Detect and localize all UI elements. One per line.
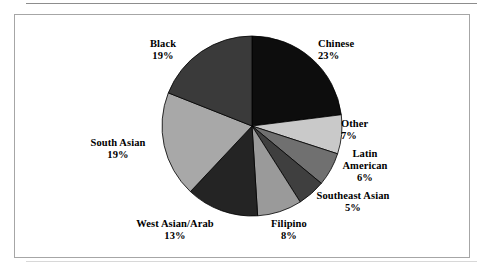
pie-label-west-asian-arab-name: West Asian/Arab (123, 218, 227, 230)
pie-slice-group (162, 36, 342, 216)
chart-page: Chinese 23% Other 7% Latin American 6% S… (0, 0, 494, 278)
pie-label-chinese: Chinese 23% (318, 38, 354, 62)
pie-label-filipino-value: 8% (259, 230, 319, 242)
pie-label-chinese-name: Chinese (318, 38, 354, 50)
pie-label-filipino-name: Filipino (259, 218, 319, 230)
pie-label-latin-american-name-line2: American (329, 160, 401, 172)
pie-label-southeast-asian: Southeast Asian 5% (305, 190, 401, 214)
pie-label-other-value: 7% (341, 130, 368, 142)
pie-label-latin-american-value: 6% (329, 172, 401, 184)
pie-chart: Chinese 23% Other 7% Latin American 6% S… (0, 0, 494, 278)
pie-label-other: Other 7% (341, 118, 368, 142)
pie-label-south-asian-value: 19% (80, 149, 156, 161)
pie-label-west-asian-arab: West Asian/Arab 13% (123, 218, 227, 242)
pie-label-south-asian-name: South Asian (80, 137, 156, 149)
pie-chart-svg (0, 0, 494, 278)
pie-label-black: Black 19% (136, 38, 190, 62)
pie-label-west-asian-arab-value: 13% (123, 230, 227, 242)
pie-label-filipino: Filipino 8% (259, 218, 319, 242)
pie-label-latin-american-name-line1: Latin (329, 148, 401, 160)
pie-label-south-asian: South Asian 19% (80, 137, 156, 161)
pie-label-black-value: 19% (136, 50, 190, 62)
pie-label-chinese-value: 23% (318, 50, 354, 62)
pie-label-other-name: Other (341, 118, 368, 130)
pie-label-southeast-asian-name: Southeast Asian (305, 190, 401, 202)
pie-label-latin-american: Latin American 6% (329, 148, 401, 183)
pie-label-black-name: Black (136, 38, 190, 50)
pie-label-southeast-asian-value: 5% (305, 202, 401, 214)
bottom-divider-rule (26, 261, 477, 262)
